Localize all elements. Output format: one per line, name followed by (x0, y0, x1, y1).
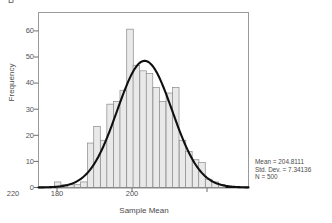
y-tick-50: 50 (16, 53, 34, 61)
x-axis-label: Sample Mean (38, 206, 250, 215)
histogram-bar (127, 29, 134, 187)
histogram-figure: B Frequency Sample Mean 0 10 20 30 40 50… (0, 0, 332, 223)
x-tick-220: 220 (0, 190, 26, 198)
y-tick-40: 40 (16, 79, 34, 87)
histogram-bar (146, 74, 153, 188)
stat-n: N = 500 (255, 173, 311, 181)
stat-std-dev: Std. Dev. = 7.34136 (255, 166, 311, 174)
histogram-bar (74, 185, 81, 188)
histogram-bar (81, 182, 88, 188)
x-tick-200: 200 (119, 190, 145, 198)
y-tick-60: 60 (16, 27, 34, 35)
histogram-bar (107, 104, 114, 187)
histogram-bar (153, 88, 160, 188)
histogram-bar (140, 71, 147, 188)
statistics-annotation: Mean = 204.8111 Std. Dev. = 7.34136 N = … (255, 158, 311, 181)
histogram-bar (120, 90, 127, 187)
histogram-bar (179, 140, 186, 187)
x-tick-180: 180 (44, 190, 70, 198)
y-tick-20: 20 (16, 132, 34, 140)
y-tick-30: 30 (16, 106, 34, 114)
histogram-bar (172, 88, 179, 188)
histogram-bar (159, 101, 166, 187)
y-tick-marks (34, 31, 39, 188)
stat-mean: Mean = 204.8111 (255, 158, 311, 166)
y-tick-10: 10 (16, 158, 34, 166)
histogram-bar (133, 65, 140, 187)
